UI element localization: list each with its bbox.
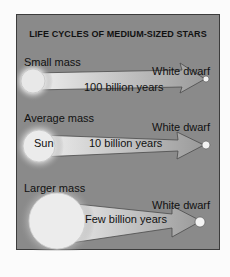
- small-mass-label: Small mass: [24, 56, 81, 68]
- duration-label-3: Few billion years: [85, 213, 167, 225]
- average-mass-label: Average mass: [24, 112, 94, 124]
- white-dwarf-label-2: White dwarf: [152, 121, 210, 133]
- duration-label-1: 100 billion years: [84, 81, 164, 93]
- white-dwarf-label-1: White dwarf: [152, 65, 210, 77]
- duration-label-2: 10 billion years: [89, 137, 162, 149]
- diagram-panel: LIFE CYCLES OF MEDIUM-SIZED STARS: [16, 14, 220, 250]
- sun-label: Sun: [34, 137, 54, 149]
- white-dwarf-label-3: White dwarf: [152, 199, 210, 211]
- larger-mass-label: Larger mass: [24, 182, 85, 194]
